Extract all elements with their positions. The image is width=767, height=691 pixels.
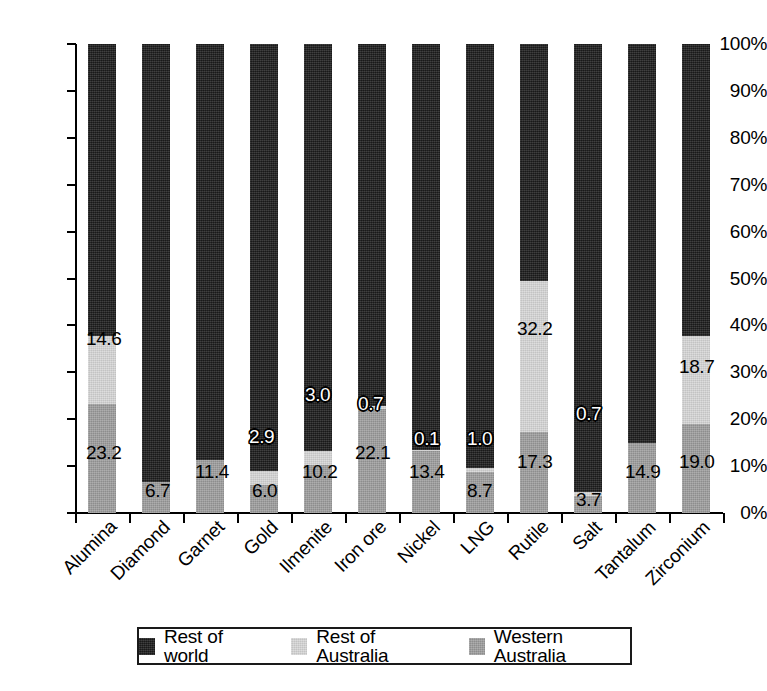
x-axis-category-label: Gold	[240, 517, 281, 558]
x-axis-tick-mark	[507, 513, 509, 523]
stacked-bar[interactable]	[520, 44, 548, 513]
bar-value-label: 1.0	[467, 429, 492, 448]
bar-segment-rest-of-australia[interactable]	[466, 468, 494, 473]
stacked-bar[interactable]	[304, 44, 332, 513]
x-axis-category-label: Nickel	[394, 517, 443, 566]
plot-area	[75, 44, 723, 513]
stacked-bar[interactable]	[574, 44, 602, 513]
bar-value-label: 2.9	[249, 427, 274, 446]
bar-segment-rest-of-world[interactable]	[358, 44, 386, 406]
bar-segment-rest-of-world[interactable]	[628, 44, 656, 443]
legend-swatch-icon	[139, 638, 155, 655]
bar-group[interactable]	[520, 44, 548, 513]
bar-value-label: 19.0	[679, 452, 714, 471]
stacked-bar[interactable]	[142, 44, 170, 513]
legend-swatch-icon	[291, 638, 307, 655]
bar-value-label: 23.2	[86, 443, 121, 462]
bar-value-label: 18.7	[679, 357, 714, 376]
bar-group[interactable]	[628, 44, 656, 513]
bar-value-label: 0.1	[414, 429, 439, 448]
bar-segment-rest-of-world[interactable]	[682, 44, 710, 336]
bar-value-label: 8.7	[467, 481, 492, 500]
bar-segment-rest-of-world[interactable]	[574, 44, 602, 492]
x-axis-category-label: Salt	[569, 517, 605, 553]
legend-label: Rest of world	[164, 627, 265, 665]
x-axis-category-label: Garnet	[174, 517, 228, 571]
bar-segment-western-australia[interactable]	[520, 432, 548, 513]
bar-segment-rest-of-world[interactable]	[196, 44, 224, 460]
bar-value-label: 11.4	[195, 462, 229, 481]
bar-segment-rest-of-world[interactable]	[250, 44, 278, 471]
bar-value-label: 14.9	[625, 462, 660, 481]
bar-value-label: 10.2	[302, 462, 337, 481]
stacked-bar-chart: 0%10%20%30%40%50%60%70%80%90%100% Alumin…	[0, 0, 767, 691]
stacked-bar[interactable]	[628, 44, 656, 513]
legend-item[interactable]: Western Australia	[469, 627, 630, 665]
x-axis-category-label: LNG	[457, 517, 498, 558]
x-axis-tick-mark	[561, 513, 563, 523]
x-axis-category-label: Rutile	[505, 517, 552, 564]
bar-segment-rest-of-world[interactable]	[520, 44, 548, 281]
bar-segment-rest-of-world[interactable]	[412, 44, 440, 450]
bar-value-label: 32.2	[517, 319, 552, 338]
bar-value-label: 0.7	[358, 394, 383, 413]
chart-legend: Rest of worldRest of AustraliaWestern Au…	[137, 627, 632, 665]
legend-item[interactable]: Rest of world	[139, 627, 265, 665]
bar-segment-rest-of-australia[interactable]	[682, 336, 710, 424]
bar-segment-rest-of-world[interactable]	[88, 44, 116, 336]
bar-value-label: 3.7	[576, 490, 601, 509]
x-axis-tick-mark	[669, 513, 671, 523]
legend-label: Western Australia	[494, 627, 630, 665]
x-axis-category-label: Ilmenite	[276, 517, 335, 576]
x-axis-tick-mark	[615, 513, 617, 523]
bar-value-label: 13.4	[409, 462, 444, 481]
bar-value-label: 6.0	[252, 481, 277, 500]
bar-value-label: 3.0	[305, 385, 330, 404]
legend-label: Rest of Australia	[316, 627, 443, 665]
bar-segment-rest-of-world[interactable]	[142, 44, 170, 482]
bar-group[interactable]	[142, 44, 170, 513]
bar-value-label: 0.7	[576, 404, 601, 423]
x-axis-tick-mark	[399, 513, 401, 523]
stacked-bar[interactable]	[682, 44, 710, 513]
bar-group[interactable]	[304, 44, 332, 513]
bar-value-label: 17.3	[517, 452, 552, 471]
x-axis-tick-mark	[291, 513, 293, 523]
bar-group[interactable]	[196, 44, 224, 513]
x-axis-tick-mark	[75, 513, 77, 523]
x-axis-category-label: Iron ore	[331, 517, 390, 576]
legend-item[interactable]: Rest of Australia	[291, 627, 443, 665]
bar-group[interactable]	[574, 44, 602, 513]
bar-group[interactable]	[682, 44, 710, 513]
bar-value-label: 14.6	[86, 329, 121, 348]
x-axis-tick-mark	[237, 513, 239, 523]
x-axis-tick-mark	[453, 513, 455, 523]
x-axis-tick-mark	[183, 513, 185, 523]
bar-value-label: 22.1	[355, 443, 390, 462]
x-axis-tick-mark	[723, 513, 725, 523]
x-axis-tick-mark	[129, 513, 131, 523]
stacked-bar[interactable]	[196, 44, 224, 513]
bar-segment-rest-of-world[interactable]	[466, 44, 494, 468]
x-axis-tick-mark	[345, 513, 347, 523]
legend-swatch-icon	[469, 638, 485, 655]
bar-value-label: 6.7	[145, 481, 170, 500]
bar-segment-rest-of-australia[interactable]	[520, 281, 548, 432]
